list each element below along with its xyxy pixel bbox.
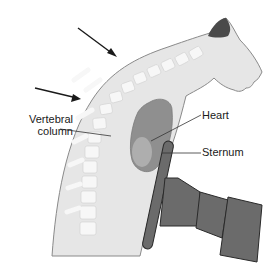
vertebral-column-label: Vertebral column [17, 113, 73, 137]
cpr-diagram: Vertebral column Heart Sternum [0, 0, 277, 275]
vertebral-column-label-line2: column [17, 125, 73, 137]
diagram-illustration [0, 0, 277, 275]
upper-arrow-icon [78, 28, 117, 57]
sternum-label: Sternum [202, 146, 244, 158]
lower-arrow-icon [35, 88, 81, 102]
vertebral-column-label-line1: Vertebral [17, 113, 73, 125]
heart-label: Heart [202, 109, 229, 121]
